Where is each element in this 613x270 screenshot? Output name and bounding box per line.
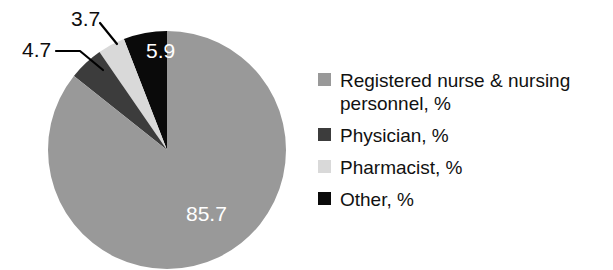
legend-item-physician: Physician, % [318, 124, 613, 147]
legend-label-other: Other, % [340, 188, 414, 211]
slice-value-physician: 4.7 [22, 39, 51, 60]
slice-value-pharmacist: 3.7 [71, 8, 100, 29]
legend-item-pharmacist: Pharmacist, % [318, 156, 613, 179]
legend-item-other: Other, % [318, 188, 613, 211]
chart-legend: Registered nurse & nursing personnel, % … [318, 69, 613, 220]
legend-label-registered-nurse: Registered nurse & nursing personnel, % [340, 69, 602, 115]
pie-chart-figure: 5.9 85.7 3.7 4.7 Registered nurse & nurs… [0, 0, 613, 270]
legend-swatch-icon [318, 73, 331, 86]
legend-item-registered-nurse: Registered nurse & nursing personnel, % [318, 69, 613, 115]
legend-label-physician: Physician, % [340, 124, 449, 147]
legend-swatch-icon [318, 160, 331, 173]
slice-value-registered-nurse: 85.7 [186, 203, 227, 224]
leader-line-pharmacist [100, 23, 117, 44]
pie-plot-area: 5.9 85.7 3.7 4.7 [0, 0, 310, 270]
legend-label-pharmacist: Pharmacist, % [340, 156, 462, 179]
legend-swatch-icon [318, 192, 331, 205]
slice-value-other: 5.9 [146, 40, 175, 61]
legend-swatch-icon [318, 128, 331, 141]
